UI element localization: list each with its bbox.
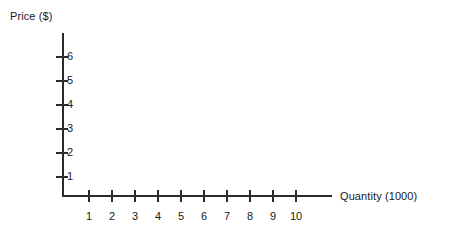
y-axis-title: Price ($) [10, 10, 52, 22]
price-quantity-chart: Price ($) Quantity (1000) 6 5 4 3 2 1 1 … [0, 0, 452, 243]
x-axis-tick-label: 3 [123, 210, 147, 222]
x-axis-title: Quantity (1000) [340, 190, 417, 202]
x-axis-line [62, 195, 332, 197]
x-axis-tick-label: 7 [215, 210, 239, 222]
x-axis-tick-label: 2 [100, 210, 124, 222]
x-axis-tick-label: 1 [77, 210, 101, 222]
x-axis-tick-label: 4 [146, 210, 170, 222]
x-axis-tick-label: 9 [261, 210, 285, 222]
x-axis-tick-label: 8 [238, 210, 262, 222]
x-axis-tick-label: 10 [284, 210, 308, 222]
plot-area [64, 33, 330, 195]
x-axis-tick-label: 6 [192, 210, 216, 222]
x-axis-tick-label: 5 [169, 210, 193, 222]
